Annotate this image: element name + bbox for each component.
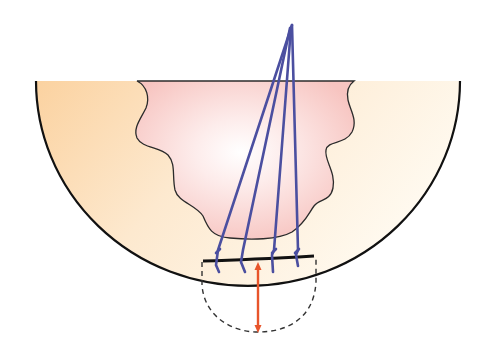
diagram-stage — [0, 0, 495, 362]
diagram-canvas — [0, 0, 495, 362]
